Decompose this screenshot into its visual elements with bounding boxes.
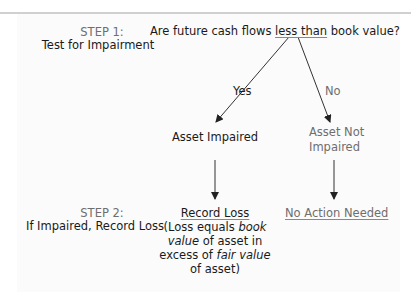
no-arrow bbox=[298, 37, 330, 122]
asset-not-impaired-line1: Asset Not bbox=[309, 125, 364, 139]
asset-not-impaired-line2: Impaired bbox=[309, 140, 360, 154]
no-action-needed: No Action Needed bbox=[285, 206, 388, 220]
record-loss-note-line2: value of asset in bbox=[150, 234, 280, 248]
yes-label: Yes bbox=[233, 84, 252, 98]
step2-label: STEP 2: bbox=[52, 206, 152, 220]
asset-impaired: Asset Impaired bbox=[165, 130, 265, 144]
yes-arrow bbox=[216, 37, 289, 122]
record-loss-note-line3: excess of fair value bbox=[150, 248, 280, 262]
record-loss-heading: Record Loss bbox=[165, 206, 265, 220]
no-label: No bbox=[325, 84, 341, 98]
record-loss-note-line4: of asset) bbox=[150, 262, 280, 276]
impairment-question: Are future cash flows less than book val… bbox=[150, 24, 400, 38]
question-emphasis: less than bbox=[275, 24, 327, 38]
step2-title: If Impaired, Record Loss bbox=[20, 219, 170, 233]
step1-label: STEP 1: bbox=[52, 25, 152, 39]
record-loss-note-line1: (Loss equals book bbox=[150, 220, 280, 234]
step1-title: Test for Impairment bbox=[28, 38, 168, 52]
